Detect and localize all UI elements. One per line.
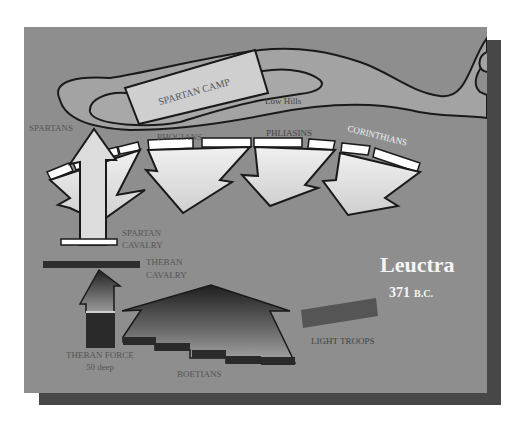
theban-force-label-2: 50 deep [86,362,115,372]
theban-cavalry-unit [43,261,140,268]
theban-force-label-1: THEBAN FORCE [66,350,134,360]
battle-era: B.C. [414,288,433,299]
theban-force-column [86,313,115,348]
light-troops-label: LIGHT TROOPS [311,336,374,346]
theban-cavalry-label-1: THEBAN [146,257,183,267]
phliasins-label: PHLIASINS [266,128,312,138]
boetians-label: BOETIANS [177,369,222,379]
battle-year: 371 [389,285,410,300]
battle-map-figure: SPARTAN CAMP Low Hills [0,0,525,426]
theban-cavalry-label-2: CAVALRY [146,270,187,280]
spartans-label: SPARTANS [29,123,73,133]
theban-force-divider [86,311,115,313]
low-hills-label: Low Hills [265,96,302,106]
battle-title: Leuctra [380,252,455,277]
spartan-cavalry-label-2: CAVALRY [122,240,163,250]
phocians-label: PHOCIANS [157,132,202,142]
spartan-cavalry-unit [61,239,117,245]
spartan-cavalry-label-1: SPARTAN [122,228,161,238]
